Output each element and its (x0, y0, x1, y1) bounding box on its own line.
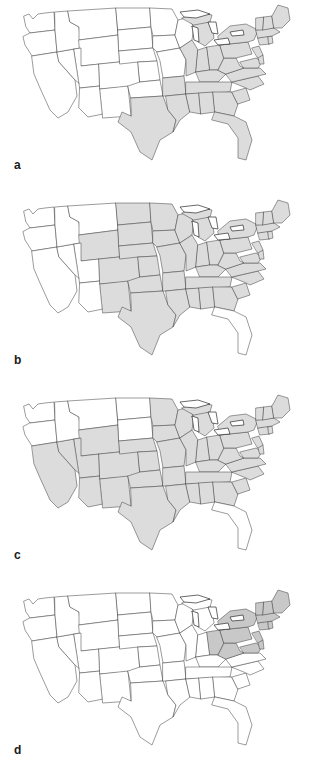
state-NJ (252, 436, 263, 448)
state-ME (272, 5, 290, 28)
state-KS (138, 646, 160, 667)
panel-label-d: d (14, 744, 21, 756)
state-SD (118, 27, 153, 51)
state-MO (157, 243, 186, 273)
state-ND (116, 8, 151, 30)
state-WA (24, 597, 55, 618)
panel-label-b: b (14, 354, 21, 366)
us-map-c (0, 390, 313, 585)
us-map-a (0, 0, 313, 195)
lake-michigan (192, 611, 199, 627)
state-OR (23, 225, 57, 251)
state-NJ (252, 631, 263, 643)
state-WA (24, 402, 55, 423)
state-RI (268, 621, 273, 629)
state-FL (212, 502, 252, 550)
state-AR (163, 76, 186, 96)
panel-c: c (0, 390, 313, 585)
lake-michigan (192, 26, 199, 42)
state-MN (150, 593, 178, 621)
state-ME (272, 590, 290, 613)
state-AL (199, 677, 215, 699)
state-VT (256, 602, 264, 615)
states-layer-b (23, 200, 290, 355)
state-ME (272, 200, 290, 223)
state-AR (163, 466, 186, 486)
state-ME (272, 395, 290, 418)
us-map-b (0, 195, 313, 390)
state-WA (24, 12, 55, 33)
state-OR (23, 30, 57, 56)
state-ND (116, 593, 151, 615)
state-KS (138, 451, 160, 472)
state-WY (79, 425, 120, 456)
state-ND (116, 203, 151, 225)
state-WA (24, 207, 55, 228)
state-AL (199, 482, 215, 504)
state-WY (79, 230, 120, 261)
panel-label-a: a (14, 159, 21, 171)
lake-erie (214, 428, 230, 435)
state-AR (163, 661, 186, 681)
state-SD (118, 417, 153, 441)
lake-michigan (192, 416, 199, 432)
state-MO (157, 633, 186, 663)
panel-b: b (0, 195, 313, 390)
state-RI (268, 426, 273, 434)
panel-a: a (0, 0, 313, 195)
four-panel-us-map-figure: a (0, 0, 313, 780)
state-AZ (79, 86, 103, 117)
state-MO (157, 438, 186, 468)
states-layer-d (23, 590, 290, 745)
state-KS (138, 256, 160, 277)
lake-erie (214, 233, 230, 240)
state-AL (199, 92, 215, 114)
state-AZ (79, 281, 103, 312)
state-AZ (79, 476, 103, 507)
state-SD (118, 222, 153, 246)
panel-label-c: c (14, 549, 21, 561)
state-ND (116, 398, 151, 420)
state-NM (100, 476, 131, 508)
state-VT (256, 17, 264, 30)
state-AR (163, 271, 186, 291)
state-FL (212, 697, 252, 745)
state-NM (100, 86, 131, 118)
state-KS (138, 61, 160, 82)
states-layer-c (23, 395, 290, 550)
state-VT (256, 407, 264, 420)
lake-erie (214, 38, 230, 45)
state-VT (256, 212, 264, 225)
state-FL (212, 307, 252, 355)
states-layer-a (23, 5, 290, 160)
us-map-d (0, 585, 313, 780)
lake-michigan (192, 221, 199, 237)
lake-erie (214, 623, 230, 630)
state-NJ (252, 241, 263, 253)
state-NM (100, 281, 131, 313)
state-RI (268, 36, 273, 44)
state-MO (157, 48, 186, 78)
state-WY (79, 35, 120, 66)
state-RI (268, 231, 273, 239)
state-AL (199, 287, 215, 309)
state-OR (23, 615, 57, 641)
state-MN (150, 203, 178, 231)
state-NJ (252, 46, 263, 58)
state-SD (118, 612, 153, 636)
state-NM (100, 671, 131, 703)
state-WY (79, 620, 120, 651)
state-FL (212, 112, 252, 160)
state-OR (23, 420, 57, 446)
panel-d: d (0, 585, 313, 780)
state-AZ (79, 671, 103, 702)
state-MN (150, 398, 178, 426)
state-MN (150, 8, 178, 36)
